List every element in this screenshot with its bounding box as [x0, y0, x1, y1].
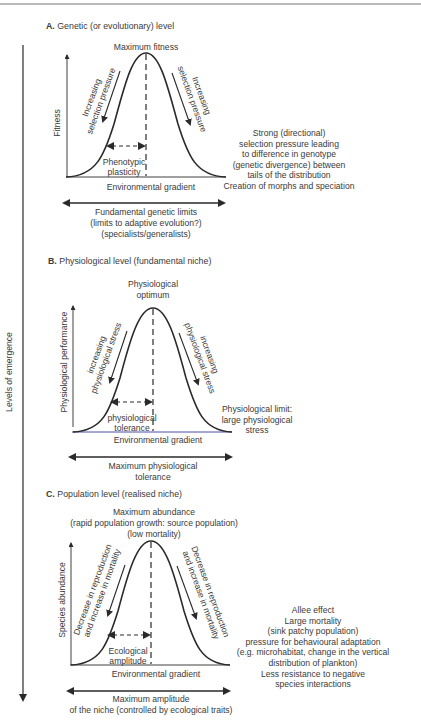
levels-of-emergence-axis: Levels of emergence — [4, 45, 23, 700]
panel-b-peak-label-2: optimum — [137, 290, 170, 300]
svg-text:to difference in genotype: to difference in genotype — [242, 149, 336, 159]
panel-c-y-label: Species abundance — [57, 562, 67, 638]
panel-a-range-label-2: (limits to adaptive evolution?) — [90, 218, 201, 228]
panel-a-title: A. Genetic (or evolutionary) level — [46, 21, 174, 31]
panel-c-width-label-1: Ecological — [108, 646, 147, 656]
svg-text:tails of the distribution: tails of the distribution — [247, 170, 330, 180]
panel-b-peak-label-1: Physiological — [128, 279, 178, 289]
panel-b-title: B. Physiological level (fundamental nich… — [48, 256, 211, 266]
panel-c-range-label-2: of the niche (controlled by ecological t… — [70, 705, 233, 715]
svg-text:(sink patchy population): (sink patchy population) — [268, 626, 359, 636]
panel-a-peak-label: Maximum fitness — [114, 42, 178, 52]
panel-c: C. Population level (realised niche) Max… — [46, 489, 389, 715]
panel-b-x-label: Environmental gradient — [114, 435, 203, 445]
svg-text:Less resistance to negative: Less resistance to negative — [261, 669, 365, 679]
panel-a-right-arrow-label: Increasing selection pressure — [176, 61, 219, 134]
panel-a-x-label: Environmental gradient — [107, 182, 196, 192]
svg-text:Allee effect: Allee effect — [292, 605, 335, 615]
panel-a: A. Genetic (or evolutionary) level Maxim… — [46, 21, 355, 239]
svg-text:Strong (directional): Strong (directional) — [253, 128, 326, 138]
svg-text:stress: stress — [246, 425, 269, 435]
panel-c-peak-label-3: (low mortality) — [127, 529, 181, 539]
panel-c-x-label: Environmental gradient — [112, 669, 201, 679]
panel-b-range-label-2: tolerance — [135, 472, 171, 482]
svg-text:distribution of plankton): distribution of plankton) — [269, 658, 358, 668]
panel-b: B. Physiological level (fundamental nich… — [48, 256, 292, 482]
panel-c-peak-label-2: (rapid population growth: source populat… — [70, 518, 238, 528]
panel-a-side-note: Strong (directional) selection pressure … — [224, 128, 355, 191]
svg-text:(e.g. microhabitat, change in: (e.g. microhabitat, change in the vertic… — [237, 647, 389, 657]
panel-c-side-note: Allee effect Large mortality (sink patch… — [237, 605, 389, 689]
panel-c-width-label-2: amplitude — [109, 656, 146, 666]
svg-text:pressure for behavioural adapt: pressure for behavioural adaptation — [245, 637, 380, 647]
panel-a-range-label-1: Fundamental genetic limits — [95, 207, 197, 217]
panel-a-left-arrow-label: Increasing selection pressure — [75, 63, 118, 136]
panel-b-range-label-1: Maximum physiological — [109, 461, 198, 471]
panel-b-width-label-2: tolerance — [114, 423, 150, 433]
svg-text:Physiological limit:: Physiological limit: — [222, 404, 292, 414]
svg-text:large physiological: large physiological — [222, 415, 293, 425]
panel-a-range-label-3: (specialists/generalists) — [101, 229, 190, 239]
panel-c-left-arrow-label: Decrease in reproduction and increase in… — [71, 543, 123, 640]
svg-text:species interactions: species interactions — [275, 679, 350, 689]
panel-c-peak-label-1: Maximum abundance — [113, 507, 195, 517]
niche-levels-diagram: Levels of emergence A. Genetic (or evolu… — [0, 0, 421, 728]
panel-c-range-label-1: Maximum amplitude — [113, 694, 190, 704]
panel-b-y-label: Physiological performance — [59, 311, 69, 412]
panel-b-left-arrow-label: increasing physiological stress — [79, 318, 123, 395]
levels-of-emergence-label: Levels of emergence — [4, 332, 14, 412]
panel-c-right-arrow-label: Decrease in reproduction and increase in… — [180, 545, 232, 642]
panel-a-width-label-2: plasticity — [108, 167, 142, 177]
panel-b-side-note: Physiological limit: large physiological… — [222, 404, 293, 435]
svg-text:Large mortality: Large mortality — [285, 616, 343, 626]
panel-b-width-label-1: physiological — [107, 413, 156, 423]
panel-b-right-arrow-label: increasing physiological stress — [183, 318, 227, 395]
svg-text:(genetic divergence) between: (genetic divergence) between — [233, 160, 346, 170]
panel-c-title: C. Population level (realised niche) — [46, 489, 182, 499]
svg-text:Creation of morphs and speciat: Creation of morphs and speciation — [224, 181, 355, 191]
panel-a-y-label: Fitness — [52, 109, 62, 137]
svg-text:selection pressure leading: selection pressure leading — [239, 139, 339, 149]
panel-a-width-label-1: Phenotypic — [103, 157, 146, 167]
